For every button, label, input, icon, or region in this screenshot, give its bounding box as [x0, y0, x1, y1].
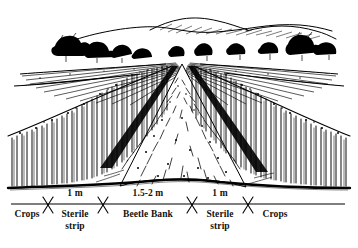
dimension-label-right-strip: 1 m — [195, 188, 245, 199]
beetle-bank-figure: 1 m 1.5-2 m 1 m Crops Sterile strip Beet… — [0, 0, 358, 248]
field-perspective-drawing — [0, 0, 358, 200]
scale-tick-3 — [187, 197, 197, 213]
segment-label-crops-right: Crops — [252, 209, 298, 220]
segment-label-crops-left: Crops — [4, 209, 50, 220]
dimension-label-beetle-bank: 1.5-2 m — [118, 188, 178, 199]
segment-label-sterile-strip-right-line2: strip — [197, 221, 243, 232]
drawing-svg — [0, 0, 358, 200]
scale-tick-2 — [98, 197, 108, 213]
segment-label-sterile-strip-right-line1: Sterile — [197, 209, 243, 220]
segment-label-beetle-bank: Beetle Bank — [113, 209, 183, 220]
segment-label-sterile-strip-left-line1: Sterile — [52, 209, 98, 220]
scale-bar: 1 m 1.5-2 m 1 m Crops Sterile strip Beet… — [0, 188, 358, 248]
segment-label-sterile-strip-left-line2: strip — [52, 221, 98, 232]
dimension-label-left-strip: 1 m — [50, 188, 100, 199]
